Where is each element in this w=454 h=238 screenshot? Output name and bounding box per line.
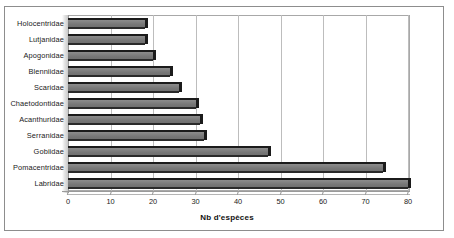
y-axis-label: Gobiidae	[0, 147, 64, 156]
bar-end-cap	[145, 18, 148, 28]
bar-end-cap	[200, 114, 203, 124]
bar	[68, 50, 156, 60]
bar	[68, 146, 271, 156]
x-axis-tick-label: 40	[227, 197, 249, 206]
bar-end-cap	[153, 50, 156, 60]
bar	[68, 114, 203, 124]
bar	[68, 98, 199, 108]
y-axis-label: Acanthuridae	[0, 115, 64, 124]
x-axis-tick-label: 60	[312, 197, 334, 206]
y-axis-label: Pomacentridae	[0, 163, 64, 172]
bar-end-cap	[179, 82, 182, 92]
bar-end-cap	[196, 98, 199, 108]
bar	[68, 162, 386, 172]
x-axis-tick-label: 30	[185, 197, 207, 206]
bar	[68, 34, 148, 44]
x-axis-line	[62, 191, 410, 192]
y-axis-label: Apogonidae	[0, 51, 64, 60]
y-axis-label: Scaridae	[0, 83, 64, 92]
y-axis-label: Holocentridae	[0, 19, 64, 28]
bar-bottom-edge	[68, 107, 196, 109]
bar	[68, 82, 182, 92]
bars	[68, 15, 410, 191]
bar-end-cap	[145, 34, 148, 44]
x-axis-tick-label: 20	[142, 197, 164, 206]
bar	[68, 130, 207, 140]
bar-bottom-edge	[68, 27, 145, 29]
bar-bottom-edge	[68, 139, 204, 141]
bar-bottom-edge	[68, 187, 408, 189]
bar-end-cap	[170, 66, 173, 76]
bar-end-cap	[268, 146, 271, 156]
x-axis-tick-label: 10	[100, 197, 122, 206]
y-axis-labels: HolocentridaeLutjanidaeApogonidaeBlennii…	[0, 15, 64, 191]
y-axis-label: Labridae	[0, 179, 64, 188]
y-axis-label: Chaetodontidae	[0, 99, 64, 108]
x-axis-tick-label: 70	[355, 197, 377, 206]
bar-bottom-edge	[68, 123, 200, 125]
y-axis-label: Serranidae	[0, 131, 64, 140]
bar	[68, 178, 411, 188]
bar-end-cap	[383, 162, 386, 172]
bar-bottom-edge	[68, 91, 179, 93]
bar	[68, 18, 148, 28]
y-axis-label: Blenniidae	[0, 67, 64, 76]
x-axis-tick-label: 0	[57, 197, 79, 206]
bar-end-cap	[204, 130, 207, 140]
x-axis-title: Nb d'espèces	[0, 213, 454, 222]
bar-end-cap	[408, 178, 411, 188]
x-axis-line-lower	[67, 194, 410, 195]
bar-bottom-edge	[68, 155, 268, 157]
bar-bottom-edge	[68, 43, 145, 45]
chart-figure: HolocentridaeLutjanidaeApogonidaeBlennii…	[0, 0, 454, 238]
bar	[68, 66, 173, 76]
bar-bottom-edge	[68, 171, 383, 173]
bar-bottom-edge	[68, 59, 153, 61]
x-axis-tick-label: 50	[270, 197, 292, 206]
x-axis-tick-label: 80	[397, 197, 419, 206]
y-axis-label: Lutjanidae	[0, 35, 64, 44]
bar-bottom-edge	[68, 75, 170, 77]
